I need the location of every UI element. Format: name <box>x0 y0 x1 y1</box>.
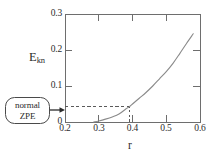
data-curve <box>94 34 194 122</box>
y-axis-ticks-left <box>65 50 72 86</box>
x-tick-label-0.6: 0.6 <box>189 124 211 134</box>
y-axis-title: Ekn <box>29 51 45 65</box>
x-tick-label-0.5: 0.5 <box>155 124 177 134</box>
x-axis-ticks-top <box>99 14 167 21</box>
chart-figure: 0.3 0.2 0.1 0 0.2 0.3 0.4 0.5 0.6 Ekn r … <box>0 0 219 158</box>
plot-frame <box>65 14 200 122</box>
callout-line-2: ZPE <box>6 112 50 122</box>
y-tick-label-0.1: 0.1 <box>40 81 62 91</box>
x-tick-label-0.2: 0.2 <box>54 124 76 134</box>
y-axis-ticks-right <box>193 50 200 86</box>
plot-canvas <box>0 0 219 158</box>
x-tick-label-0.3: 0.3 <box>88 124 110 134</box>
y-tick-label-0.3: 0.3 <box>40 9 62 19</box>
y-axis-title-main: E <box>29 50 37 64</box>
y-axis-title-subscript: kn <box>37 55 45 65</box>
arrow-right-icon <box>50 107 65 113</box>
x-tick-label-0.4: 0.4 <box>122 124 144 134</box>
x-axis-title: r <box>128 140 132 152</box>
callout-line-1: normal <box>6 101 50 111</box>
